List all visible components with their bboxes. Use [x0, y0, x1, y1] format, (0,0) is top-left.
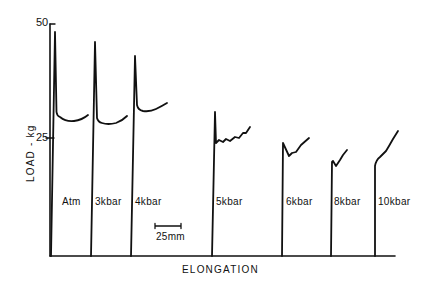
label-atm: Atm	[62, 196, 81, 207]
label-10kbar: 10kbar	[378, 196, 410, 207]
label-3kbar: 3kbar	[95, 196, 122, 207]
load-elongation-figure: 50 25 LOAD - kg Atm 3kbar 4kbar 5kbar 6k…	[0, 0, 430, 284]
scale-bar-label: 25mm	[156, 231, 185, 242]
curve-3kbar	[91, 42, 127, 256]
x-axis-title: ELONGATION	[182, 264, 259, 275]
label-5kbar: 5kbar	[216, 196, 243, 207]
chart-plot	[0, 0, 430, 284]
label-6kbar: 6kbar	[286, 196, 313, 207]
curve-atm	[51, 32, 88, 256]
y-tick-50: 50	[36, 16, 48, 28]
label-8kbar: 8kbar	[334, 196, 361, 207]
label-4kbar: 4kbar	[135, 196, 162, 207]
y-tick-25: 25	[36, 131, 48, 143]
scale-bar	[155, 224, 181, 229]
curve-10kbar	[375, 131, 398, 256]
curve-5kbar	[212, 112, 250, 256]
y-axis-title: LOAD - kg	[25, 125, 36, 182]
